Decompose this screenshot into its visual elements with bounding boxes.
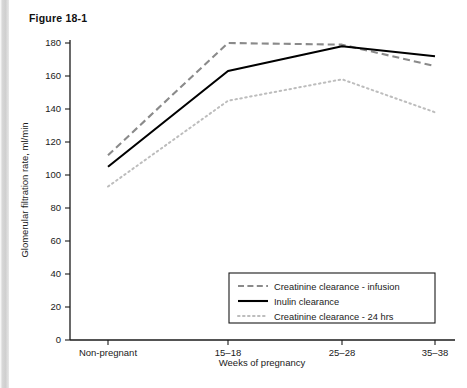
x-tick-label: 25–28 xyxy=(329,347,355,358)
y-tick-label: 40 xyxy=(50,268,61,279)
y-tick-label: 120 xyxy=(45,136,61,147)
y-tick-label: 160 xyxy=(45,70,61,81)
y-tick-label: 80 xyxy=(50,202,61,213)
x-tick-label: 35–38 xyxy=(422,347,448,358)
y-tick-label: 20 xyxy=(50,301,61,312)
y-axis: 020406080100120140160180 xyxy=(45,37,70,345)
y-tick-label: 0 xyxy=(56,334,61,345)
y-tick-label: 100 xyxy=(45,169,61,180)
y-tick-label: 180 xyxy=(45,37,61,48)
legend-label: Inulin clearance xyxy=(274,297,339,307)
legend-label: Creatinine clearance - infusion xyxy=(274,282,400,292)
series-line xyxy=(108,43,435,155)
y-axis-title: Glomerular filtration rate, ml/min xyxy=(19,122,30,257)
x-axis-title: Weeks of pregnancy xyxy=(219,357,306,368)
legend: Creatinine clearance - infusionInulin cl… xyxy=(229,273,435,323)
x-axis: Non-pregnant15–1825–2835–38 xyxy=(70,340,455,358)
y-tick-label: 60 xyxy=(50,235,61,246)
legend-label: Creatinine clearance - 24 hrs xyxy=(274,312,394,322)
series-layer xyxy=(108,43,435,187)
series-line xyxy=(108,46,435,166)
x-tick-label: Non-pregnant xyxy=(79,347,137,358)
line-chart: 020406080100120140160180 Non-pregnant15–… xyxy=(0,0,467,388)
series-line xyxy=(108,79,435,186)
y-tick-label: 140 xyxy=(45,103,61,114)
